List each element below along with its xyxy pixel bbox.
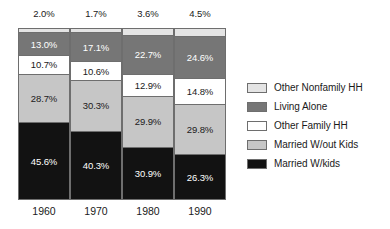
legend-label: Married W/out Kids <box>274 139 358 150</box>
stacked-bar: 17.1%10.6%30.3%40.3% <box>70 28 122 200</box>
legend-label: Other Nonfamily HH <box>274 82 363 93</box>
x-axis-tick-label: 1960 <box>18 205 70 218</box>
bar-segment-living: 22.7% <box>122 35 174 74</box>
bar-segment-marw: 45.6% <box>18 122 70 200</box>
bar-segment-marwo: 29.9% <box>122 96 174 147</box>
bar-top-label: 2.0% <box>18 8 70 20</box>
bar-segment-otherfam: 10.7% <box>18 55 70 74</box>
legend-item-nonfamily: Other Nonfamily HH <box>247 78 390 97</box>
bar-segment-marw: 26.3% <box>174 154 226 200</box>
bar-segment-marwo: 29.8% <box>174 104 226 154</box>
legend-label: Married W/kids <box>274 158 340 169</box>
bar-segment-otherfam: 12.9% <box>122 74 174 96</box>
bar-segment-marw: 30.9% <box>122 147 174 200</box>
bar-segment-marwo: 30.3% <box>70 80 122 131</box>
bar-segment-marwo: 28.7% <box>18 74 70 123</box>
stacked-bar: 22.7%12.9%29.9%30.9% <box>122 28 174 200</box>
legend-swatch-nonfamily <box>247 83 267 93</box>
bar-segment-nonfamily <box>122 28 174 35</box>
legend-item-otherfam: Other Family HH <box>247 116 390 135</box>
legend-swatch-marwo <box>247 140 267 150</box>
stacked-bar: 13.0%10.7%28.7%45.6% <box>18 28 70 200</box>
plot-area: 2.0%13.0%10.7%28.7%45.6%19601.7%17.1%10.… <box>0 0 232 229</box>
bar-top-label: 4.5% <box>174 8 226 20</box>
bar-segment-living: 24.6% <box>174 36 226 78</box>
bar-segment-living: 13.0% <box>18 32 70 55</box>
stacked-bar: 24.6%14.8%29.8%26.3% <box>174 28 226 200</box>
legend-item-marwo: Married W/out Kids <box>247 135 390 154</box>
legend-swatch-marw <box>247 159 267 169</box>
x-axis-tick-label: 1970 <box>70 205 122 218</box>
bar-segment-living: 17.1% <box>70 32 122 61</box>
bar-segment-otherfam: 14.8% <box>174 78 226 104</box>
legend-label: Other Family HH <box>274 120 348 131</box>
legend-swatch-otherfam <box>247 121 267 131</box>
bar-segment-otherfam: 10.6% <box>70 61 122 80</box>
legend-swatch-living <box>247 102 267 112</box>
stacked-bar-chart: 2.0%13.0%10.7%28.7%45.6%19601.7%17.1%10.… <box>0 0 390 229</box>
chart-legend: Other Nonfamily HHLiving AloneOther Fami… <box>247 78 390 173</box>
legend-item-marw: Married W/kids <box>247 154 390 173</box>
bar-segment-nonfamily <box>174 28 226 36</box>
x-axis-tick-label: 1990 <box>174 205 226 218</box>
bar-top-label: 1.7% <box>70 8 122 20</box>
legend-label: Living Alone <box>274 101 327 112</box>
bar-top-label: 3.6% <box>122 8 174 20</box>
legend-item-living: Living Alone <box>247 97 390 116</box>
x-axis-tick-label: 1980 <box>122 205 174 218</box>
bar-segment-marw: 40.3% <box>70 131 122 200</box>
